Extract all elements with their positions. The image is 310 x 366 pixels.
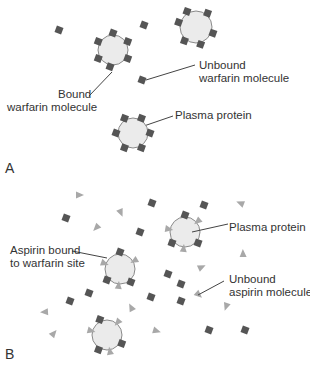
- label-plasma-protein-a: Plasma protein: [175, 109, 252, 122]
- unbound-warfarin-molecule: [55, 26, 64, 35]
- label-unbound-warfarin-line2: warfarin molecule: [199, 72, 289, 85]
- unbound-aspirin-molecule: [126, 302, 136, 312]
- diagram-canvas: [0, 0, 310, 366]
- unbound-warfarin-molecule: [241, 326, 250, 335]
- label-unbound-aspirin-line1: Unbound: [229, 273, 276, 286]
- unbound-warfarin-molecule: [140, 21, 149, 30]
- panel-letter-b: B: [5, 346, 14, 362]
- unbound-warfarin-molecule: [62, 214, 71, 223]
- unbound-warfarin-molecule: [177, 297, 186, 306]
- unbound-aspirin-molecule: [49, 328, 60, 339]
- label-unbound-warfarin-line1: Unbound: [199, 59, 246, 72]
- label-bound-warfarin-line1: Bound: [58, 88, 91, 101]
- leader-line: [198, 281, 224, 295]
- panel-letter-a: A: [5, 160, 14, 176]
- label-bound-warfarin-line2: warfarin molecule: [7, 101, 97, 114]
- unbound-aspirin-molecule: [40, 308, 48, 316]
- unbound-warfarin-molecule: [205, 326, 214, 335]
- unbound-warfarin-molecule: [164, 270, 173, 279]
- unbound-aspirin-molecule: [76, 192, 84, 199]
- label-plasma-protein-b: Plasma protein: [229, 221, 306, 234]
- unbound-warfarin-molecule: [177, 280, 186, 289]
- leader-line: [89, 72, 112, 96]
- unbound-warfarin-molecule: [85, 289, 94, 298]
- unbound-aspirin-molecule: [197, 262, 207, 272]
- unbound-aspirin-molecule: [235, 198, 245, 207]
- unbound-warfarin-molecule: [200, 201, 209, 210]
- leader-line: [146, 65, 195, 80]
- label-aspirin-bound-line1: Aspirin bound: [10, 244, 80, 257]
- unbound-aspirin-molecule: [116, 208, 126, 218]
- unbound-warfarin-molecule: [147, 293, 156, 302]
- drug-binding-diagram: Bound warfarin molecule Unbound warfarin…: [0, 0, 310, 366]
- unbound-aspirin-molecule: [239, 249, 246, 257]
- unbound-aspirin-molecule: [152, 326, 162, 335]
- label-aspirin-bound-line2: to warfarin site: [10, 257, 85, 270]
- unbound-warfarin-molecule: [148, 199, 157, 208]
- unbound-warfarin-molecule: [138, 76, 147, 85]
- unbound-warfarin-molecule: [66, 297, 75, 306]
- unbound-warfarin-molecule: [136, 228, 145, 237]
- label-unbound-aspirin-line2: aspirin molecule: [229, 286, 310, 299]
- unbound-aspirin-molecule: [221, 302, 230, 312]
- unbound-aspirin-molecule: [91, 223, 102, 234]
